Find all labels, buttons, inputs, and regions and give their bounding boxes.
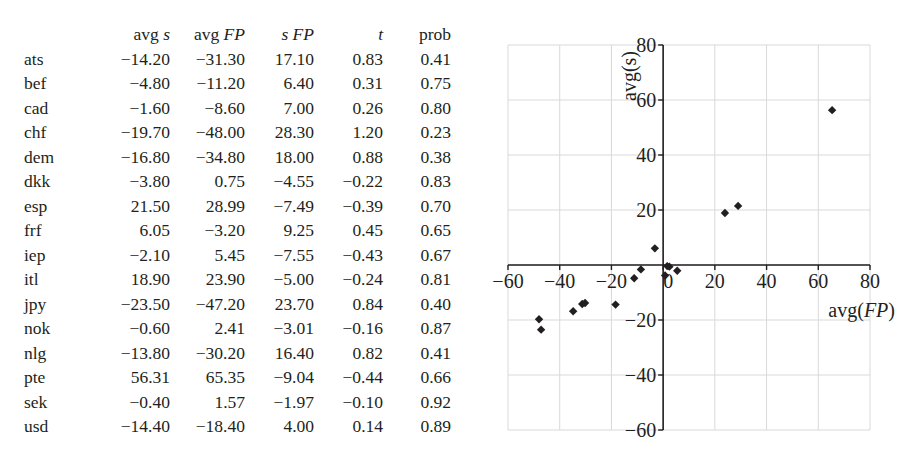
diamond-marker-icon (673, 267, 681, 275)
x-tick-label: −40 (544, 270, 575, 292)
diamond-marker-icon (828, 106, 836, 114)
x-tick-label: −60 (492, 270, 523, 292)
data-points (535, 106, 836, 334)
y-tick-label: −20 (625, 309, 656, 331)
diamond-marker-icon (611, 300, 619, 308)
diamond-marker-icon (537, 325, 545, 333)
y-tick-label: −60 (625, 419, 656, 441)
x-tick-label: −20 (596, 270, 627, 292)
y-tick-label: −40 (625, 364, 656, 386)
x-tick-label: 40 (757, 270, 777, 292)
scatter-chart: −60−40−2002040608080604020−20−40−60 avg(… (0, 0, 902, 459)
x-tick-label: 60 (808, 270, 828, 292)
diamond-marker-icon (651, 244, 659, 252)
axes (508, 45, 870, 430)
gridlines (508, 45, 870, 430)
diamond-marker-icon (734, 202, 742, 210)
x-tick-label: 80 (860, 270, 880, 292)
diamond-marker-icon (637, 265, 645, 273)
tick-labels: −60−40−2002040608080604020−20−40−60 (492, 34, 880, 441)
y-axis-label: avg(s) (618, 51, 641, 101)
x-tick-label: 20 (705, 270, 725, 292)
y-tick-label: 40 (636, 144, 656, 166)
y-tick-label: 20 (636, 199, 656, 221)
x-axis-label: avg(FP) (828, 299, 895, 322)
diamond-marker-icon (569, 307, 577, 315)
diamond-marker-icon (535, 315, 543, 323)
diamond-marker-icon (630, 274, 638, 282)
